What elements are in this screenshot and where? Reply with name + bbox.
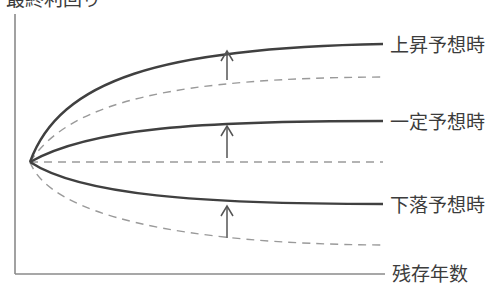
rise-base-curve [30, 77, 383, 162]
y-axis-title: 最終利回り [6, 0, 101, 10]
fall-expectation-label: 下落予想時 [390, 194, 485, 216]
x-axis-label: 残存年数 [392, 263, 468, 285]
fall-expectation-curve [30, 162, 383, 204]
flat-expectation-curve [30, 121, 383, 162]
flat-expectation-label: 一定予想時 [390, 111, 485, 133]
shift-arrows [221, 51, 233, 238]
rise-expectation-curve [30, 44, 383, 162]
rise-expectation-label: 上昇予想時 [390, 34, 485, 56]
